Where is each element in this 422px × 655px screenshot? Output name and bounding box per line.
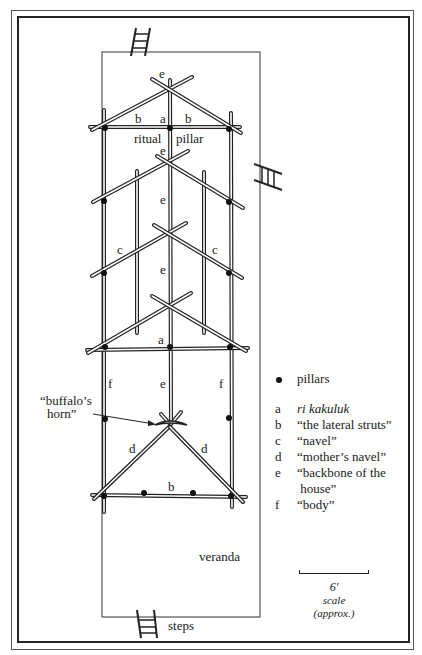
legend-text: “body” bbox=[297, 497, 415, 513]
legend-row: a ri kakuluk bbox=[275, 401, 415, 417]
label-pillar: pillar bbox=[176, 132, 203, 145]
label-e-lower: e bbox=[160, 377, 166, 390]
label-b-right: b bbox=[185, 112, 192, 125]
label-veranda: veranda bbox=[199, 550, 240, 563]
legend-text: house” bbox=[297, 481, 415, 497]
legend-text: “the lateral struts” bbox=[297, 417, 415, 433]
label-b-bottom: b bbox=[168, 480, 175, 493]
legend-row: f “body” bbox=[275, 497, 415, 513]
legend-row-pillars: pillars bbox=[275, 371, 415, 387]
legend-row: b “the lateral struts” bbox=[275, 417, 415, 433]
legend-row: e “backbone of the bbox=[275, 465, 415, 481]
legend-text: “mother’s navel” bbox=[297, 449, 415, 465]
scale-value: 6′ bbox=[298, 580, 370, 594]
label-e-second: e bbox=[160, 144, 166, 157]
legend-text: “backbone of the bbox=[297, 465, 415, 481]
legend-key: c bbox=[275, 433, 297, 449]
legend-row: d “mother’s navel” bbox=[275, 449, 415, 465]
frame-poles bbox=[87, 77, 248, 512]
side-ladder-icon bbox=[254, 164, 282, 190]
label-f-right: f bbox=[219, 377, 223, 390]
label-d-left: d bbox=[129, 442, 136, 455]
legend-key: a bbox=[275, 401, 297, 417]
label-d-right: d bbox=[201, 442, 208, 455]
legend-dot-icon bbox=[275, 371, 297, 387]
legend-key bbox=[275, 481, 297, 497]
legend-text: ri kakuluk bbox=[297, 401, 415, 417]
label-steps: steps bbox=[168, 619, 194, 632]
scale-note: (approx.) bbox=[298, 607, 370, 620]
legend-key: d bbox=[275, 449, 297, 465]
arrowhead-icon bbox=[148, 420, 156, 426]
scale-indicator: 6′ scale (approx.) bbox=[298, 570, 370, 620]
legend-key: f bbox=[275, 497, 297, 513]
label-f-left: f bbox=[108, 377, 112, 390]
label-a-top: a bbox=[160, 112, 166, 125]
label-a-lower: a bbox=[158, 333, 164, 346]
label-buffalo-horn-line2: horn” bbox=[47, 407, 77, 420]
label-e-fourth: e bbox=[160, 263, 166, 276]
pillar-dots bbox=[101, 125, 234, 499]
legend-row: c “navel” bbox=[275, 433, 415, 449]
label-ritual: ritual bbox=[134, 132, 161, 145]
label-e-apex: e bbox=[159, 67, 165, 80]
legend: pillars a ri kakuluk b “the lateral stru… bbox=[275, 371, 415, 513]
legend-text: “navel” bbox=[297, 433, 415, 449]
legend-key: b bbox=[275, 417, 297, 433]
legend-key: e bbox=[275, 465, 297, 481]
scale-bar bbox=[299, 570, 369, 574]
label-c-left: c bbox=[117, 243, 123, 256]
legend-row: house” bbox=[275, 481, 415, 497]
label-c-right: c bbox=[212, 243, 218, 256]
scale-label: scale bbox=[298, 594, 370, 607]
label-e-third: e bbox=[160, 193, 166, 206]
legend-pillars-label: pillars bbox=[297, 371, 415, 387]
label-b-left: b bbox=[135, 112, 142, 125]
steps-ladder-icon bbox=[137, 610, 157, 638]
